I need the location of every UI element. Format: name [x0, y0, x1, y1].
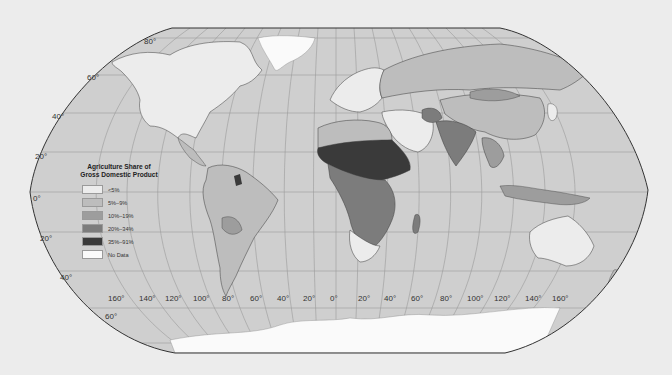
legend-item: 5%–9%: [82, 196, 202, 209]
legend-swatch: [82, 185, 103, 194]
latitude-label: 80°: [144, 37, 156, 46]
legend-title-line1: Agriculture Share of: [74, 163, 164, 171]
legend-title: Agriculture Share of Gross Domestic Prod…: [74, 163, 164, 179]
longitude-label: 120°: [165, 294, 182, 303]
longitude-label: 160°: [108, 294, 125, 303]
longitude-label: 80°: [222, 294, 234, 303]
longitude-label: 140°: [139, 294, 156, 303]
longitude-label: 40°: [384, 294, 396, 303]
longitude-label: 0°: [330, 294, 338, 303]
legend-label: 35%–91%: [108, 239, 134, 245]
legend-swatch: [82, 237, 103, 246]
longitude-label: 140°: [525, 294, 542, 303]
legend-title-line2: Gross Domestic Product: [74, 171, 164, 179]
legend-label: No Data: [108, 252, 129, 258]
longitude-label: 60°: [250, 294, 262, 303]
longitude-label: 20°: [303, 294, 315, 303]
legend-item: No Data: [82, 248, 202, 261]
legend-label: 20%–34%: [108, 226, 134, 232]
legend-swatch: [82, 250, 103, 259]
legend-swatch: [82, 224, 103, 233]
legend-swatch: [82, 198, 103, 207]
longitude-label: 60°: [411, 294, 423, 303]
longitude-label: 120°: [494, 294, 511, 303]
latitude-label: 40°: [60, 273, 72, 282]
latitude-label: 20°: [40, 234, 52, 243]
legend-swatch: [82, 211, 103, 220]
legend-label: 10%–19%: [108, 213, 134, 219]
latitude-label: 60°: [87, 73, 99, 82]
legend-item: <5%: [82, 183, 202, 196]
longitude-label: 40°: [277, 294, 289, 303]
longitude-label: 100°: [467, 294, 484, 303]
legend-item: 35%–91%: [82, 235, 202, 248]
legend-label: <5%: [108, 187, 119, 193]
latitude-label: 0°: [33, 194, 41, 203]
longitude-label: 80°: [440, 294, 452, 303]
latitude-label: 20°: [35, 152, 47, 161]
legend: Agriculture Share of Gross Domestic Prod…: [82, 163, 202, 261]
latitude-label: 40°: [52, 112, 64, 121]
legend-item: 10%–19%: [82, 209, 202, 222]
legend-label: 5%–9%: [108, 200, 127, 206]
longitude-label: 20°: [358, 294, 370, 303]
longitude-label: 100°: [193, 294, 210, 303]
longitude-label: 160°: [552, 294, 569, 303]
latitude-label: 60°: [105, 312, 117, 321]
legend-item: 20%–34%: [82, 222, 202, 235]
